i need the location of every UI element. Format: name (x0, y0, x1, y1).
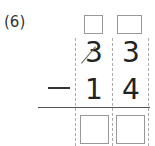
answer-box-tens[interactable] (80, 115, 109, 144)
minuend-ones-digit: 3 (113, 39, 149, 67)
problem-number-label: (6) (4, 13, 25, 31)
answer-box-ones[interactable] (116, 115, 145, 144)
subtrahend-tens-digit: 1 (76, 76, 112, 104)
borrow-box-tens[interactable] (84, 15, 103, 34)
answer-line (38, 107, 150, 108)
borrow-box-ones[interactable] (117, 15, 142, 34)
minus-sign (48, 87, 70, 89)
subtrahend-ones-digit: 4 (113, 76, 149, 104)
